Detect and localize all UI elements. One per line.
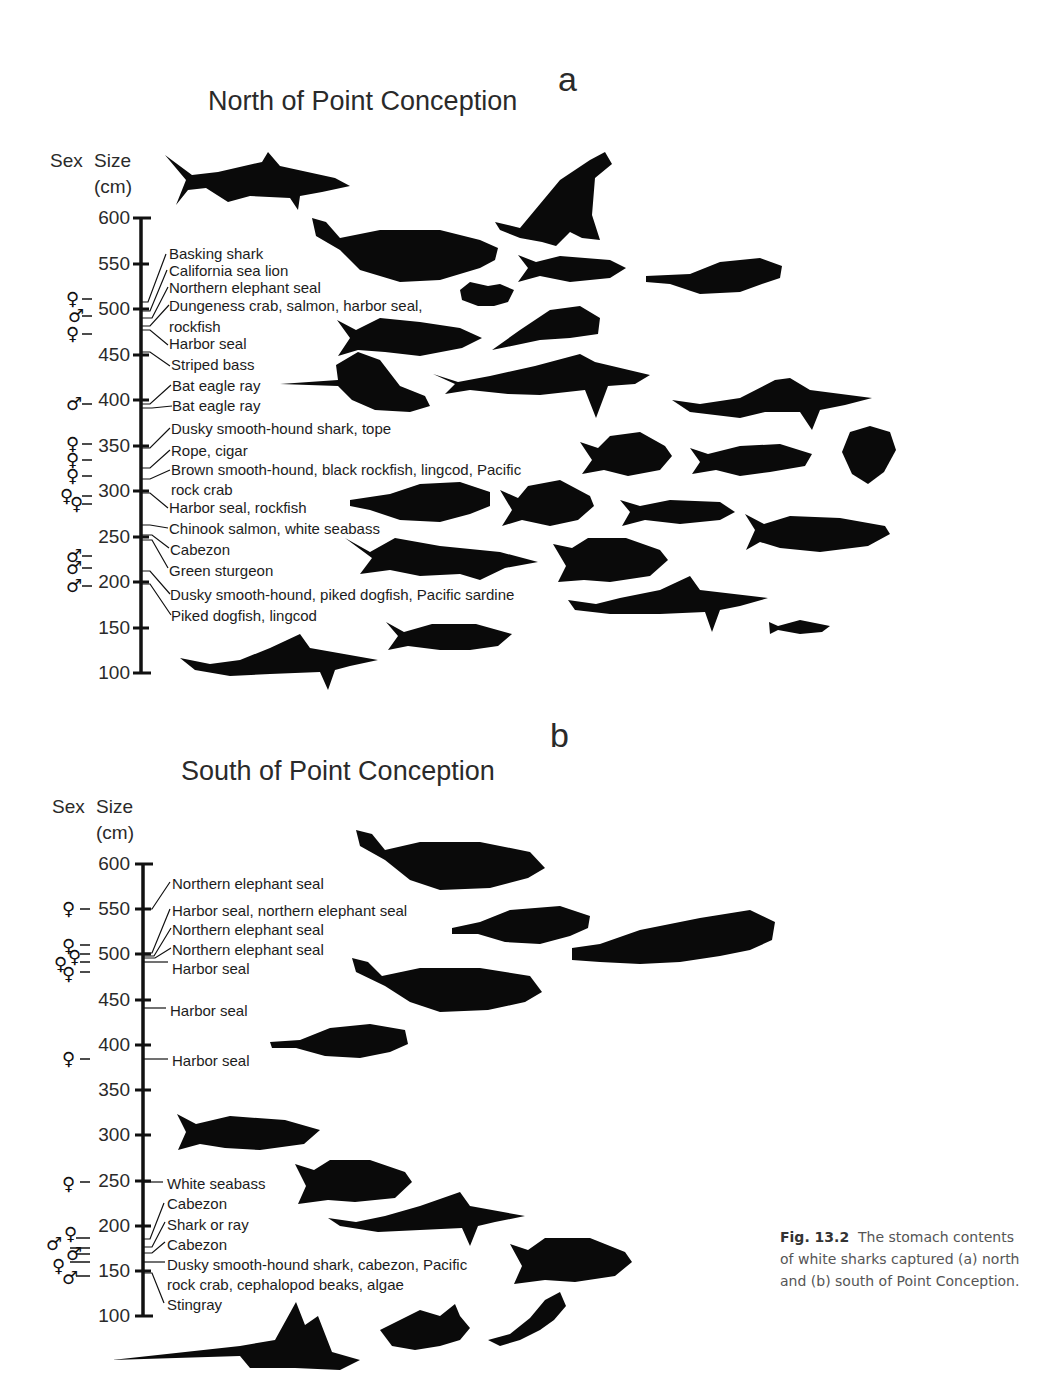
- panel-a-silhouettes: [165, 152, 896, 690]
- rock-crab-icon: [380, 1304, 470, 1350]
- rock-crab-icon: [842, 426, 896, 484]
- stingray-icon: [112, 1302, 360, 1370]
- female-icon: ♀: [64, 1223, 77, 1244]
- cabezon-icon: [295, 1160, 412, 1204]
- sturgeon-icon: [345, 538, 538, 580]
- female-icon: ♀: [66, 465, 79, 486]
- lingcod-2-icon: [386, 622, 512, 650]
- female-icon: ♀: [70, 493, 83, 514]
- bat-ray-icon: [280, 352, 430, 412]
- harbor-seal-2-icon: [270, 1024, 408, 1058]
- white-seabass-icon: [177, 1114, 320, 1150]
- panel-a-sex-symbols: ♀ ♂ ♀ ♂ ♀ ♀ ♀ ♀ ♀ ♂ ♂ ♂: [60, 288, 84, 596]
- piked-dogfish-2-icon: [180, 634, 378, 690]
- striped-bass-icon: [337, 318, 482, 356]
- female-icon: ♀: [62, 898, 75, 919]
- panel-a-sex-dashes: [82, 299, 92, 586]
- female-icon: ♀: [66, 323, 79, 344]
- elephant-seal-large-icon: [572, 910, 775, 964]
- sardine-icon: [769, 620, 830, 634]
- harbor-seal-2-icon: [350, 482, 490, 522]
- elephant-seal-2-icon: [352, 958, 542, 1012]
- elephant-seal-icon: [356, 830, 545, 890]
- female-icon: ♀: [62, 963, 75, 984]
- piked-dogfish-icon: [568, 576, 768, 632]
- figure-graphics: ♀ ♂ ♀ ♂ ♀ ♀ ♀ ♀ ♀ ♂ ♂ ♂: [0, 0, 1042, 1382]
- rockfish-icon: [580, 432, 672, 476]
- cabezon-2-icon: [510, 1238, 632, 1284]
- cabezon-icon: [553, 538, 668, 582]
- panel-a-axis: [133, 218, 172, 673]
- squid-icon: [488, 1292, 566, 1346]
- smooth-hound-icon: [672, 378, 872, 430]
- male-icon: ♂: [66, 575, 82, 596]
- harbor-seal-icon: [452, 906, 590, 944]
- male-icon: ♂: [66, 393, 82, 414]
- female-icon: ♀: [62, 1173, 75, 1194]
- crab-icon: [460, 282, 514, 306]
- harbor-seal-icon: [646, 258, 782, 294]
- rockfish-2-icon: [500, 480, 594, 526]
- elephant-seal-icon: [312, 218, 498, 282]
- salmon-icon: [518, 255, 626, 282]
- basking-shark-icon: [165, 152, 350, 210]
- male-icon: ♂: [46, 1233, 62, 1254]
- panel-b-axis: [135, 864, 171, 1316]
- panel-b-sex-symbols: ♀ ♀ ♀ ♀ ♀ ♀ ♀ ♀ ♂ ♂ ♀ ♂: [46, 898, 82, 1288]
- white-seabass-icon: [745, 514, 890, 552]
- salmon-2-icon: [492, 306, 600, 350]
- tope-shark-icon: [433, 354, 650, 418]
- panel-b-silhouettes: [112, 830, 775, 1370]
- lingcod-icon: [690, 444, 812, 476]
- female-icon: ♀: [62, 1048, 75, 1069]
- male-icon: ♂: [62, 1267, 78, 1288]
- sea-lion-icon: [495, 152, 612, 246]
- salmon-3-icon: [620, 500, 735, 526]
